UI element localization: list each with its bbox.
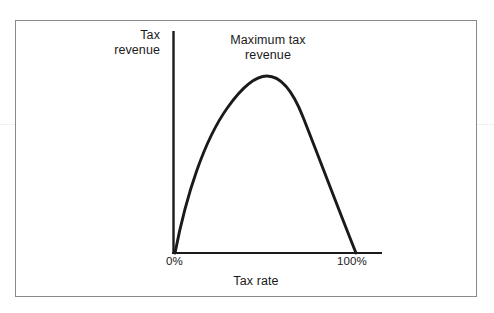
laffer-curve-path	[175, 76, 356, 253]
x-tick-label-100-percent: 100%	[337, 255, 367, 269]
x-tick-label-0-percent: 0%	[166, 255, 183, 269]
x-axis-label: Tax rate	[196, 274, 316, 289]
maximum-revenue-annotation: Maximum tax revenue	[198, 33, 338, 63]
y-axis-label: Tax revenue	[114, 28, 160, 58]
